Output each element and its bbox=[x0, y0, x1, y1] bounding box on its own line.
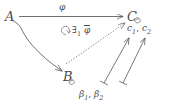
object-label-C: C bbox=[127, 10, 137, 23]
betas-comma: , bbox=[88, 89, 91, 99]
arrow-A-to-B bbox=[14, 21, 63, 71]
beta2-subscript: 2 bbox=[99, 94, 103, 102]
commutes-icon bbox=[61, 26, 70, 34]
phi-bar-glyph: φ bbox=[84, 26, 90, 35]
object-label-B: B bbox=[63, 70, 73, 83]
phi-glyph: φ bbox=[59, 2, 65, 12]
arrow-label-constants: c1, c2 bbox=[127, 24, 151, 35]
commutative-diagram: A B C φ ∃1 φ c1, c2 β1, β2 bbox=[0, 0, 177, 110]
arrow-label-phi: φ bbox=[59, 3, 65, 12]
arrow-beta2-to-C bbox=[120, 38, 146, 85]
arrow-label-betas: β1, β2 bbox=[79, 90, 103, 101]
exists-subscript: 1 bbox=[77, 30, 81, 38]
arrow-beta1-to-C bbox=[101, 38, 130, 85]
arrow-label-exists-phi-bar: ∃1 φ bbox=[72, 26, 90, 37]
object-label-A: A bbox=[5, 10, 14, 23]
constants-comma: , bbox=[136, 23, 139, 33]
c2-subscript: 2 bbox=[147, 28, 151, 36]
